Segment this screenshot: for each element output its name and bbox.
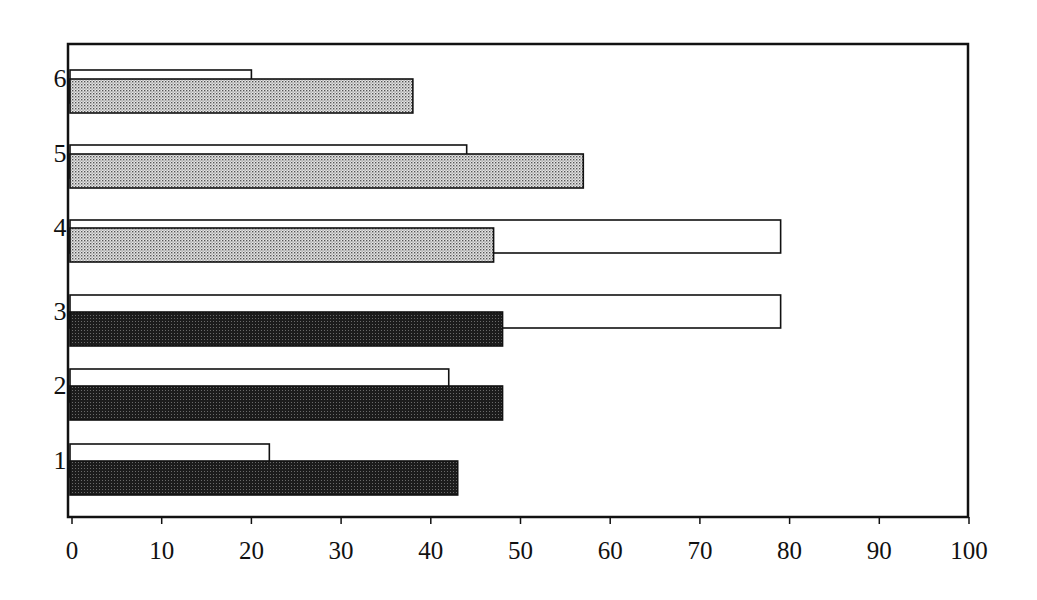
x-tick-label: 100 [950,537,988,564]
patterned-bar [70,228,494,262]
x-tick-label: 50 [508,537,533,564]
patterned-bar [70,461,458,495]
x-tick-label: 70 [687,537,712,564]
y-tick-label: 4 [54,213,67,242]
y-axis: 123456 [54,64,67,475]
patterned-bar [70,312,503,346]
x-tick-label: 60 [598,537,623,564]
patterned-bar [70,79,413,113]
y-tick-label: 6 [54,64,67,93]
y-tick-label: 5 [54,139,67,168]
x-tick-label: 30 [329,537,354,564]
patterned-bar [70,154,583,188]
x-axis: 0102030405060708090100 [66,517,988,564]
y-tick-label: 3 [54,297,67,326]
x-tick-label: 0 [66,537,79,564]
x-tick-label: 10 [149,537,174,564]
x-tick-label: 40 [418,537,443,564]
y-tick-label: 1 [54,446,67,475]
patterned-bar [70,386,503,420]
x-tick-label: 90 [867,537,892,564]
x-tick-label: 80 [777,537,802,564]
bar-chart: 0102030405060708090100 123456 [0,0,1037,600]
x-tick-label: 20 [239,537,264,564]
bar-group-2 [70,369,503,420]
y-tick-label: 2 [54,371,67,400]
